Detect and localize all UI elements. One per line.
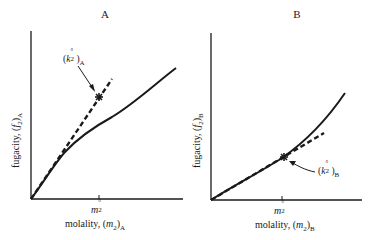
panel-a-ylabel-tail: ): [10, 118, 21, 121]
panel-a-xlabel-text: molality, (: [65, 218, 106, 229]
panel-a-annot-sup: °: [70, 47, 73, 55]
panel-b-annot-sub: 2: [325, 167, 329, 175]
panel-b-ylabel-var: f: [191, 125, 202, 128]
panel-a-y-axis-label: fugacity, (f2)A: [10, 113, 24, 168]
panel-a-ylabel-sub: 2: [16, 121, 24, 125]
panel-b-plot: [211, 33, 362, 200]
plot-canvas: [0, 0, 371, 240]
panel-a-annot-outer-sub: A: [80, 59, 85, 67]
panel-b-tick-var: m: [274, 205, 281, 216]
panel-a-x-tick-label: m°2: [91, 203, 104, 215]
panel-a-annot-sub: 2: [70, 55, 74, 63]
panel-b-ylabel-tail: ): [191, 118, 202, 121]
figure: A fugacity, (f2)A m°2 molality, (m2)A (k…: [0, 0, 371, 240]
panel-b-ylabel-sub: 2: [197, 121, 205, 125]
panel-a-ylabel-outer-sub: A: [16, 113, 24, 118]
panel-a-plot: [31, 31, 183, 199]
panel-b-title: B: [287, 8, 307, 20]
panel-a-fugacity-curve: [31, 68, 176, 199]
panel-a-star-marker: [95, 93, 103, 101]
panel-b-annot-outer-sub: B: [335, 171, 340, 179]
panel-b-henry-line: [211, 133, 324, 200]
panel-a-x-axis-label: molality, (m2)A: [65, 218, 125, 232]
panel-b-ylabel-text: fugacity, (: [191, 128, 202, 168]
panel-b-star-marker: [280, 153, 288, 161]
panel-a-ylabel-var: f: [10, 125, 21, 128]
panel-a-ylabel-text: fugacity, (: [10, 128, 21, 168]
panel-b-x-axis-label: molality, (m2)B: [255, 219, 315, 233]
panel-b-ylabel-outer-sub: B: [197, 113, 205, 118]
panel-b-xlabel-text: molality, (: [255, 219, 296, 230]
panel-a-tick-sup: °: [98, 198, 101, 206]
panel-a-tick-sub: 2: [98, 206, 102, 214]
panel-b-henry-constant-label: (k°2)B: [318, 164, 339, 179]
panel-b-annotation-arrow: [289, 161, 315, 172]
panel-b-x-tick-label: m°2: [274, 204, 287, 216]
panel-b-annot-sup: °: [325, 159, 328, 167]
panel-b-tick-sub: 2: [281, 207, 285, 215]
panel-a-annotation-arrow: [78, 66, 95, 92]
panel-a-xlabel-outer-sub: A: [120, 224, 125, 232]
panel-a-title: A: [95, 8, 115, 20]
panel-b-fugacity-curve: [211, 93, 345, 200]
panel-b-xlabel-outer-sub: B: [310, 225, 315, 233]
panel-b-y-axis-label: fugacity, (f2)B: [191, 113, 205, 168]
panel-a-tick-var: m: [91, 204, 98, 215]
panel-a-henry-constant-label: (k°2)A: [63, 52, 85, 67]
panel-b-tick-sup: °: [281, 199, 284, 207]
